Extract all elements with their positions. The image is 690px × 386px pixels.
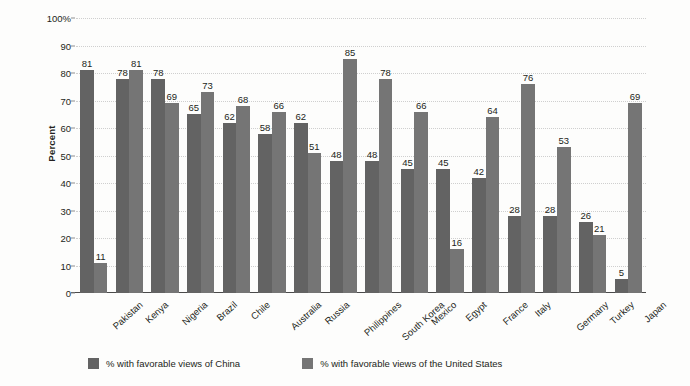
y-axis-tick-label: 20 bbox=[60, 233, 71, 244]
bar-value-label: 65 bbox=[189, 102, 200, 113]
bar-value-label: 66 bbox=[416, 100, 427, 111]
bar-value-label: 42 bbox=[474, 166, 485, 177]
bar-group: 5866 bbox=[258, 18, 285, 293]
y-axis-tick-label: 90 bbox=[60, 40, 71, 51]
y-axis-tick-label: 30 bbox=[60, 205, 71, 216]
bar-rect bbox=[80, 70, 94, 293]
bar-group: 2876 bbox=[508, 18, 535, 293]
bar-rect bbox=[472, 178, 486, 294]
bar-group: 4885 bbox=[330, 18, 357, 293]
bar-rect bbox=[343, 59, 357, 293]
bar-china: 58 bbox=[258, 18, 272, 293]
bar-united-states: 21 bbox=[593, 18, 607, 293]
bar-rect bbox=[151, 79, 165, 294]
bar-rect bbox=[436, 169, 450, 293]
plot-area: 0102030405060708090100%81117881786965736… bbox=[76, 18, 646, 293]
bar-value-label: 73 bbox=[202, 80, 213, 91]
y-axis-tick bbox=[71, 210, 75, 211]
y-axis-tick bbox=[71, 265, 75, 266]
bar-rect bbox=[236, 106, 250, 293]
bar-china: 62 bbox=[294, 18, 308, 293]
bar-rect bbox=[543, 216, 557, 293]
bar-rect bbox=[223, 123, 237, 294]
y-axis-tick-label: 80 bbox=[60, 68, 71, 79]
y-axis-title: Percent bbox=[46, 109, 57, 179]
bar-united-states: 69 bbox=[165, 18, 179, 293]
bar-group: 2621 bbox=[579, 18, 606, 293]
bar-rect bbox=[414, 112, 428, 294]
bar-united-states: 73 bbox=[201, 18, 215, 293]
bar-united-states: 69 bbox=[628, 18, 642, 293]
bar-rect bbox=[272, 112, 286, 294]
bar-group: 8111 bbox=[80, 18, 107, 293]
x-axis-label: Kenya bbox=[143, 299, 170, 325]
bar-united-states: 78 bbox=[379, 18, 393, 293]
bar-value-label: 51 bbox=[309, 141, 320, 152]
bar-group: 4516 bbox=[436, 18, 463, 293]
x-axis-label: France bbox=[500, 299, 529, 327]
bar-rect bbox=[201, 92, 215, 293]
bar-rect bbox=[615, 279, 629, 293]
bar-group: 7869 bbox=[151, 18, 178, 293]
chart-legend: % with favorable views of China % with f… bbox=[88, 358, 502, 369]
bar-united-states: 53 bbox=[557, 18, 571, 293]
bar-china: 5 bbox=[615, 18, 629, 293]
bar-united-states: 85 bbox=[343, 18, 357, 293]
y-axis-tick-label: 70 bbox=[60, 95, 71, 106]
bar-value-label: 69 bbox=[630, 91, 641, 102]
legend-swatch-china-icon bbox=[88, 358, 99, 369]
y-axis-tick bbox=[71, 18, 75, 19]
bar-value-label: 85 bbox=[345, 47, 356, 58]
bar-rect bbox=[628, 103, 642, 293]
bar-united-states: 76 bbox=[521, 18, 535, 293]
bar-china: 28 bbox=[543, 18, 557, 293]
legend-label-united-states: % with favorable views of the United Sta… bbox=[320, 358, 502, 369]
bar-value-label: 21 bbox=[594, 223, 605, 234]
bar-china: 78 bbox=[116, 18, 130, 293]
bar-value-label: 78 bbox=[117, 67, 128, 78]
bar-group: 6251 bbox=[294, 18, 321, 293]
x-axis-label: Russia bbox=[322, 299, 351, 327]
bar-group: 6573 bbox=[187, 18, 214, 293]
y-axis-tick bbox=[71, 293, 75, 294]
bar-value-label: 53 bbox=[558, 135, 569, 146]
bar-group: 2853 bbox=[543, 18, 570, 293]
bar-rect bbox=[557, 147, 571, 293]
x-axis-label: Egypt bbox=[463, 299, 488, 323]
bar-value-label: 45 bbox=[438, 157, 449, 168]
bar-rect bbox=[521, 84, 535, 293]
y-axis-tick-label: 50 bbox=[60, 150, 71, 161]
bar-rect bbox=[116, 79, 130, 294]
bar-rect bbox=[365, 161, 379, 293]
y-axis-tick-label: 10 bbox=[60, 260, 71, 271]
bar-rect bbox=[308, 153, 322, 293]
bar-rect bbox=[129, 70, 143, 293]
bar-group: 4264 bbox=[472, 18, 499, 293]
bar-group: 6268 bbox=[223, 18, 250, 293]
bar-united-states: 11 bbox=[94, 18, 108, 293]
bar-rect bbox=[508, 216, 522, 293]
y-axis-tick bbox=[71, 73, 75, 74]
bar-rect bbox=[187, 114, 201, 293]
bar-rect bbox=[294, 123, 308, 294]
x-axis-label: Brazil bbox=[214, 299, 239, 323]
x-axis-label: Japan bbox=[642, 299, 669, 324]
bar-value-label: 78 bbox=[380, 67, 391, 78]
bar-value-label: 28 bbox=[509, 204, 520, 215]
bar-value-label: 5 bbox=[619, 267, 624, 278]
bar-rect bbox=[486, 117, 500, 293]
y-axis-tick bbox=[71, 183, 75, 184]
bar-rect bbox=[450, 249, 464, 293]
bar-value-label: 66 bbox=[273, 100, 284, 111]
y-axis-tick-label: 100% bbox=[47, 13, 71, 24]
bar-united-states: 66 bbox=[272, 18, 286, 293]
bar-value-label: 68 bbox=[238, 94, 249, 105]
bar-united-states: 66 bbox=[414, 18, 428, 293]
bar-china: 26 bbox=[579, 18, 593, 293]
bar-value-label: 16 bbox=[452, 237, 463, 248]
y-axis-tick bbox=[71, 155, 75, 156]
bar-value-label: 48 bbox=[367, 149, 378, 160]
bar-rect bbox=[94, 263, 108, 293]
bar-united-states: 51 bbox=[308, 18, 322, 293]
bar-value-label: 58 bbox=[260, 122, 271, 133]
